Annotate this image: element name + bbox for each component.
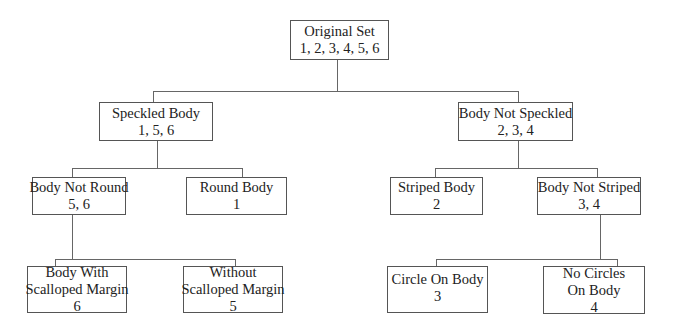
node-striped-body: Striped Body 2	[390, 177, 483, 215]
node-label-line1: No Circles	[563, 265, 625, 282]
node-items: 1, 2, 3, 4, 5, 6	[300, 40, 380, 57]
node-items: 5	[229, 298, 236, 315]
connector-speckled-stem	[157, 141, 158, 168]
node-items: 5, 6	[68, 196, 90, 213]
connector-to-striped	[435, 168, 436, 177]
node-body-not-speckled: Body Not Speckled 2, 3, 4	[458, 102, 573, 141]
connector-not-round-stem	[72, 215, 73, 259]
node-without-scalloped-margin: Without Scalloped Margin 5	[183, 266, 283, 313]
connector-to-circle	[436, 259, 437, 266]
node-label-line1: Body With	[45, 264, 108, 281]
connector-to-round	[242, 168, 243, 177]
node-label-line2: On Body	[568, 282, 621, 299]
node-circle-on-body: Circle On Body 3	[387, 266, 488, 313]
node-label: Body Not Round	[29, 179, 128, 196]
node-label-line1: Without	[210, 264, 257, 281]
node-body-not-striped: Body Not Striped 3, 4	[537, 177, 641, 215]
connector-to-not-round	[72, 168, 73, 177]
node-items: 4	[590, 299, 597, 316]
node-label: Original Set	[304, 23, 374, 40]
connector-level1-bar	[153, 91, 519, 92]
node-label: Round Body	[200, 179, 274, 196]
node-items: 1	[233, 196, 240, 213]
node-label: Speckled Body	[112, 105, 200, 122]
node-items: 2, 3, 4	[497, 122, 533, 139]
node-items: 3	[434, 288, 441, 305]
node-label-line2: Scalloped Margin	[25, 281, 128, 298]
connector-to-not-speckled	[518, 91, 519, 102]
connector-not-speckled-bar	[435, 168, 598, 169]
node-speckled-body: Speckled Body 1, 5, 6	[99, 102, 213, 141]
node-items: 2	[433, 196, 440, 213]
node-label: Circle On Body	[392, 271, 484, 288]
connector-to-not-striped	[597, 168, 598, 177]
node-label: Body Not Speckled	[459, 105, 573, 122]
node-label-line2: Scalloped Margin	[181, 281, 284, 298]
connector-root-stem	[337, 60, 338, 91]
node-body-with-scalloped-margin: Body With Scalloped Margin 6	[27, 266, 127, 313]
connector-not-round-bar	[55, 259, 236, 260]
connector-to-speckled	[153, 91, 154, 102]
node-items: 3, 4	[578, 196, 600, 213]
node-no-circles-on-body: No Circles On Body 4	[543, 266, 645, 314]
node-items: 1, 5, 6	[138, 122, 174, 139]
node-body-not-round: Body Not Round 5, 6	[32, 177, 126, 215]
connector-not-striped-bar	[436, 259, 618, 260]
node-original-set: Original Set 1, 2, 3, 4, 5, 6	[290, 20, 389, 60]
node-label: Body Not Striped	[538, 179, 640, 196]
connector-not-striped-stem	[600, 215, 601, 259]
connector-not-speckled-stem	[518, 141, 519, 168]
node-items: 6	[73, 298, 80, 315]
node-round-body: Round Body 1	[186, 177, 287, 215]
node-label: Striped Body	[398, 179, 475, 196]
connector-speckled-bar	[72, 168, 243, 169]
